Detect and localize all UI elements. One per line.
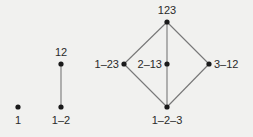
node-label-1-2: 1–2: [52, 114, 70, 126]
node-label-1-23: 1–23: [95, 58, 119, 70]
node-label-12: 12: [55, 46, 67, 58]
node-1: [15, 104, 20, 109]
node-1-2-3: [164, 104, 169, 109]
labels: 1121–21231–232–133–121–2–3: [15, 4, 239, 126]
node-label-2-13: 2–13: [138, 58, 162, 70]
edge-123-to-3-12: [167, 22, 209, 64]
node-label-1: 1: [15, 114, 21, 126]
node-1-2: [58, 104, 63, 109]
node-12: [58, 61, 63, 66]
partition-lattice-diagram: 1121–21231–232–133–121–2–3: [0, 0, 253, 137]
node-label-3-12: 3–12: [214, 58, 238, 70]
node-2-13: [164, 61, 169, 66]
edges: [61, 22, 209, 107]
node-label-123: 123: [158, 4, 176, 16]
diagram-canvas: 1121–21231–232–133–121–2–3: [0, 0, 253, 137]
node-123: [164, 19, 169, 24]
node-3-12: [206, 61, 211, 66]
node-1-23: [121, 61, 126, 66]
node-label-1-2-3: 1–2–3: [152, 114, 183, 126]
edge-3-12-to-1-2-3: [167, 64, 209, 107]
edge-1-23-to-1-2-3: [124, 64, 167, 107]
